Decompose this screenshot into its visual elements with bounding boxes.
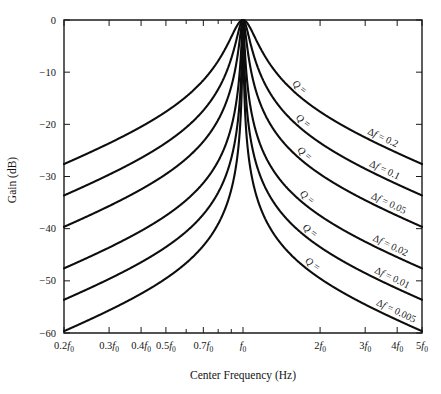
x-axis-title: Center Frequency (Hz) [190,369,296,382]
svg-text:−30: −30 [40,171,56,182]
svg-text:−60: −60 [40,328,56,339]
bandpass-gain-chart: 0.2f00.3f00.4f00.5f00.7f0f02f03f04f05f0 … [0,0,441,394]
svg-text:−50: −50 [40,275,56,286]
y-axis-title: Gain (dB) [6,157,19,203]
svg-text:−40: −40 [40,223,56,234]
svg-text:−20: −20 [40,119,56,130]
chart-figure: 0.2f00.3f00.4f00.5f00.7f0f02f03f04f05f0 … [0,0,441,394]
svg-text:0: 0 [51,15,56,26]
svg-text:−10: −10 [40,67,56,78]
